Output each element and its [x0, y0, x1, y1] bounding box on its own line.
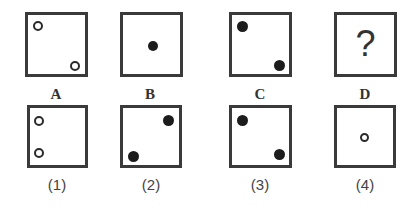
hollow-circle-icon: [34, 148, 44, 158]
figure-label-a: A: [46, 86, 66, 103]
filled-dot-icon: [237, 115, 248, 126]
hollow-circle-icon: [33, 21, 43, 31]
answer-option-3[interactable]: [229, 105, 292, 168]
option-label-2: (2): [131, 176, 171, 193]
option-label-1: (1): [37, 176, 77, 193]
question-figure-b: [120, 12, 183, 77]
question-mark: ?: [337, 24, 394, 64]
figure-label-c: C: [250, 86, 270, 103]
hollow-circle-icon: [34, 116, 44, 126]
filled-dot-icon: [163, 115, 174, 126]
option-label-3: (3): [240, 176, 280, 193]
hollow-circle-icon: [70, 61, 80, 71]
question-figure-d: ?: [334, 12, 397, 77]
filled-dot-icon: [274, 60, 285, 71]
filled-dot-icon: [237, 21, 248, 32]
filled-dot-icon: [128, 151, 139, 162]
filled-dot-icon: [274, 149, 285, 160]
figure-label-d: D: [355, 86, 375, 103]
hollow-circle-icon: [360, 133, 369, 142]
figure-label-b: B: [140, 86, 160, 103]
question-figure-a: [25, 12, 88, 77]
filled-dot-icon: [148, 41, 158, 51]
answer-option-2[interactable]: [120, 105, 182, 168]
option-label-4: (4): [345, 176, 385, 193]
answer-option-1[interactable]: [27, 105, 88, 168]
question-figure-c: [229, 12, 292, 77]
answer-option-4[interactable]: [334, 105, 396, 168]
